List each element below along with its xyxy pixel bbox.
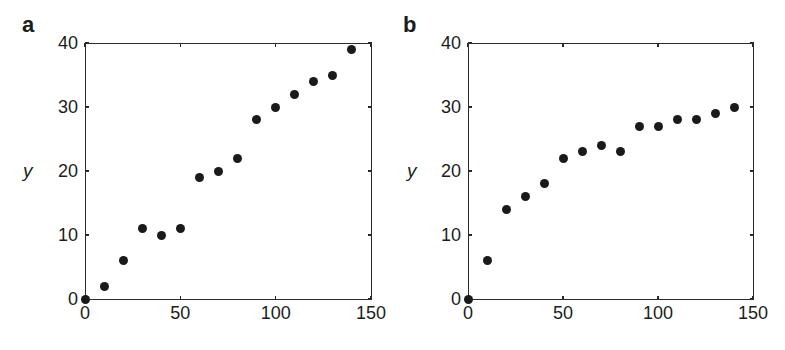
y-tick-right (750, 106, 754, 108)
data-point (692, 115, 701, 124)
data-point (328, 71, 337, 80)
x-tick-label: 0 (443, 304, 493, 322)
data-point (81, 295, 90, 304)
data-point (464, 295, 473, 304)
x-tick (657, 296, 659, 300)
data-point (157, 231, 166, 240)
panel-label-b: b (403, 12, 416, 38)
x-tick (370, 296, 372, 300)
axes-frame (85, 43, 372, 300)
data-point (521, 192, 530, 201)
data-point (730, 103, 739, 112)
data-point (138, 224, 147, 233)
x-tick-label: 50 (155, 304, 205, 322)
y-tick-right (750, 170, 754, 172)
data-point (540, 179, 549, 188)
x-tick-top (370, 43, 372, 47)
data-point (195, 173, 204, 182)
y-tick (85, 170, 89, 172)
x-tick (275, 296, 277, 300)
y-tick (468, 106, 472, 108)
x-tick (180, 296, 182, 300)
x-tick (752, 296, 754, 300)
x-tick-top (657, 43, 659, 47)
x-tick-label: 100 (633, 304, 683, 322)
x-tick (562, 296, 564, 300)
y-tick-label: 40 (38, 34, 78, 52)
y-tick-label: 10 (38, 226, 78, 244)
data-point (616, 147, 625, 156)
y-tick (468, 234, 472, 236)
y-tick-right (750, 234, 754, 236)
y-tick (85, 234, 89, 236)
y-tick-label: 30 (38, 98, 78, 116)
x-tick-top (467, 43, 469, 47)
y-axis-label-b: y (407, 160, 417, 182)
data-point (654, 122, 663, 131)
x-tick-top (180, 43, 182, 47)
y-tick (85, 106, 89, 108)
x-tick-label: 150 (346, 304, 396, 322)
data-point (559, 154, 568, 163)
data-point (711, 109, 720, 118)
data-point (483, 256, 492, 265)
x-tick-top (562, 43, 564, 47)
y-tick (468, 170, 472, 172)
data-point (673, 115, 682, 124)
data-point (176, 224, 185, 233)
data-point (290, 90, 299, 99)
axes-frame (468, 43, 754, 300)
data-point (597, 141, 606, 150)
y-tick-label: 40 (421, 34, 461, 52)
data-point (578, 147, 587, 156)
y-tick-right (368, 106, 372, 108)
x-tick-label: 0 (60, 304, 110, 322)
x-tick-top (275, 43, 277, 47)
y-tick-right (368, 170, 372, 172)
x-tick-label: 50 (538, 304, 588, 322)
y-tick-label: 30 (421, 98, 461, 116)
data-point (635, 122, 644, 131)
data-point (233, 154, 242, 163)
data-point (214, 167, 223, 176)
data-point (271, 103, 280, 112)
x-tick-top (84, 43, 86, 47)
y-tick-label: 20 (421, 162, 461, 180)
data-point (100, 282, 109, 291)
y-tick-label: 20 (38, 162, 78, 180)
x-tick-label: 100 (251, 304, 301, 322)
data-point (119, 256, 128, 265)
data-point (502, 205, 511, 214)
x-tick-top (752, 43, 754, 47)
y-tick-label: 10 (421, 226, 461, 244)
x-tick-label: 150 (728, 304, 778, 322)
y-tick-right (368, 234, 372, 236)
